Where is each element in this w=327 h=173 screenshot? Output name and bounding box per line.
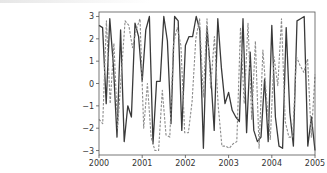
y-tick-label: 0 <box>89 80 94 89</box>
y-tick-label: 2 <box>89 35 94 44</box>
y-tick-label: −2 <box>82 124 94 133</box>
x-tick-label: 2004 <box>262 159 282 168</box>
y-tick-label: −1 <box>82 102 94 111</box>
x-tick-label: 2001 <box>132 159 152 168</box>
x-axis: 200020012002200320042005 <box>89 155 325 168</box>
y-tick-label: −3 <box>82 147 94 156</box>
y-tick-label: 1 <box>89 57 94 66</box>
x-tick-label: 2005 <box>305 159 325 168</box>
series-line-solid <box>99 17 315 151</box>
x-tick-label: 2002 <box>175 159 195 168</box>
x-tick-label: 2003 <box>218 159 238 168</box>
line-chart: 3210−1−2−3 200020012002200320042005 <box>0 0 327 173</box>
series-layer <box>99 17 315 151</box>
y-tick-label: 3 <box>89 12 94 21</box>
x-tick-label: 2000 <box>89 159 109 168</box>
y-axis: 3210−1−2−3 <box>82 12 99 155</box>
